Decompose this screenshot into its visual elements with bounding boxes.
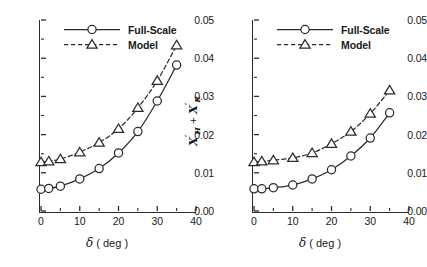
x-tick-label: 10 (74, 215, 86, 227)
chart-panel-left: 0.000.010.020.030.040.05 010203040 Full-… (0, 0, 214, 267)
y-tick-label: 0.04 (395, 52, 427, 64)
x-axis-title-left: δ ( deg ) (0, 236, 214, 250)
legend-label-full-scale: Full-Scale (128, 24, 177, 36)
x-tick-label: 10 (287, 215, 299, 227)
legend-symbol-triangle-dashed (63, 37, 121, 52)
x-tick-label: 40 (190, 215, 202, 227)
legend-entry-model: Model (276, 37, 390, 52)
y-axis-symbol-xh: X′H (186, 127, 200, 146)
legend-left: Full-Scale Model (63, 22, 177, 52)
legend-symbol-triangle-dashed (276, 37, 334, 52)
x-axis-symbol-delta: δ (299, 236, 306, 250)
y-tick-label: 0.02 (395, 129, 427, 141)
legend-entry-model: Model (63, 37, 177, 52)
figure-root: 0.000.010.020.030.040.05 010203040 Full-… (0, 0, 427, 267)
x-tick-label: 20 (113, 215, 125, 227)
x-tick-label: 30 (364, 215, 376, 227)
y-axis-title: X′H + X′R (184, 96, 202, 146)
y-tick-label: 0.05 (182, 14, 214, 26)
x-tick-label: 40 (403, 215, 415, 227)
x-tick-label: 0 (38, 215, 44, 227)
y-tick-label: 0.04 (182, 52, 214, 64)
x-tick-label: 20 (326, 215, 338, 227)
y-tick-label: 0.01 (395, 167, 427, 179)
y-tick-label: 0.03 (395, 90, 427, 102)
legend-symbol-circle-solid (276, 22, 334, 37)
x-axis-symbol-delta: δ (86, 236, 93, 250)
legend-right: Full-Scale Model (276, 22, 390, 52)
x-axis-unit: ( deg ) (309, 237, 341, 249)
legend-symbol-circle-solid (63, 22, 121, 37)
x-tick-label: 0 (251, 215, 257, 227)
legend-entry-full-scale: Full-Scale (63, 22, 177, 37)
x-axis-title-right: δ ( deg ) (213, 236, 427, 250)
legend-label-full-scale: Full-Scale (341, 24, 390, 36)
y-axis-plus-sign: + (187, 114, 199, 124)
y-tick-label: 0.01 (182, 167, 214, 179)
y-tick-label: 0.05 (395, 14, 427, 26)
chart-panel-right: 0.000.010.020.030.040.05 010203040 Full-… (213, 0, 427, 267)
legend-label-model: Model (128, 39, 158, 51)
x-tick-label: 30 (151, 215, 163, 227)
y-axis-symbol-xr: X′R (186, 96, 200, 114)
legend-label-model: Model (341, 39, 371, 51)
legend-entry-full-scale: Full-Scale (276, 22, 390, 37)
x-axis-unit: ( deg ) (96, 237, 128, 249)
